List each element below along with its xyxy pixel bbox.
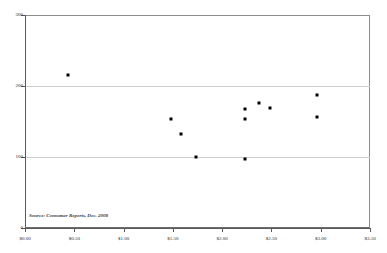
y-axis-tick-label: 300 xyxy=(16,11,24,19)
x-axis-tick-label: $1.00 xyxy=(118,235,129,243)
x-axis-tick-label: $0.00 xyxy=(19,235,30,243)
x-axis-line xyxy=(25,228,370,229)
x-axis-tick-label: $2.00 xyxy=(217,235,228,243)
data-point xyxy=(179,133,182,136)
data-point xyxy=(315,116,318,119)
y-axis-tick-label: 100 xyxy=(16,153,24,161)
y-axis-tick-label: 0 xyxy=(21,224,24,232)
data-point xyxy=(194,156,197,159)
x-axis-tick xyxy=(124,228,125,232)
x-axis-tick xyxy=(25,228,26,232)
data-point xyxy=(269,107,272,110)
y-axis-line xyxy=(25,15,26,229)
x-axis-tick-label: $2.50 xyxy=(266,235,277,243)
gridline xyxy=(25,86,370,87)
gridline xyxy=(25,157,370,158)
data-point xyxy=(243,108,246,111)
x-axis-tick-label: $0.50 xyxy=(69,235,80,243)
plot-frame xyxy=(25,15,370,228)
data-point xyxy=(67,74,70,77)
data-point xyxy=(243,158,246,161)
x-axis-tick xyxy=(173,228,174,232)
data-point xyxy=(243,118,246,121)
x-axis-tick xyxy=(271,228,272,232)
scatter-chart-screenshot: 0100200300 $0.00$0.50$1.00$1.50$2.00$2.5… xyxy=(0,0,387,253)
data-point xyxy=(315,94,318,97)
x-axis-tick xyxy=(74,228,75,232)
data-point xyxy=(169,118,172,121)
x-axis-tick-label: $3.50 xyxy=(364,235,375,243)
source-note: Source: Consumer Reports, Dec. 2008 xyxy=(29,212,108,220)
x-axis-tick xyxy=(321,228,322,232)
x-axis-tick xyxy=(222,228,223,232)
y-axis-tick-label: 200 xyxy=(16,82,24,90)
data-point xyxy=(257,102,260,105)
x-axis-tick-label: $3.00 xyxy=(315,235,326,243)
x-axis-tick-label: $1.50 xyxy=(167,235,178,243)
x-axis-tick xyxy=(370,228,371,232)
